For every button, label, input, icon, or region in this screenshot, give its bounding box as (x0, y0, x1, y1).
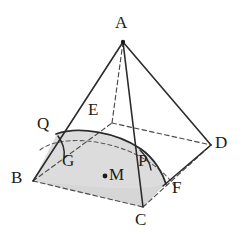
edge-A-D (123, 42, 211, 145)
edge-D-F (163, 145, 211, 186)
label-point-F: F (172, 179, 181, 196)
label-apex-A: A (115, 14, 127, 31)
label-point-G: G (62, 152, 74, 169)
geometry-figure: A E Q D G P B M F C (0, 0, 247, 238)
label-vertex-C: C (135, 211, 146, 228)
center-point-M (103, 174, 108, 179)
label-vertex-B: B (11, 169, 22, 186)
apex-point-A (121, 40, 125, 44)
label-vertex-D: D (215, 134, 227, 151)
label-vertex-E: E (88, 101, 98, 118)
edge-A-E (112, 42, 123, 123)
label-point-P: P (138, 152, 147, 169)
label-center-M: M (109, 166, 124, 183)
label-point-Q: Q (37, 115, 49, 132)
